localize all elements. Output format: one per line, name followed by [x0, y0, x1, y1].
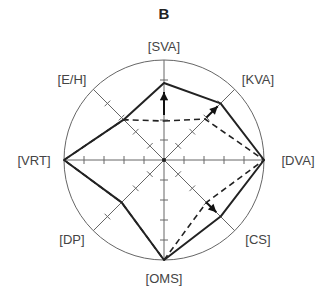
axis-label-dva: [DVA]	[282, 153, 315, 168]
radar-chart: B [SVA][KVA][DVA][CS][OMS][DP][VRT][E/H]	[0, 0, 332, 301]
axis-spoke	[164, 89, 235, 160]
axis-spoke	[93, 160, 164, 231]
axis-spoke	[164, 160, 235, 231]
axis-label-oms: [OMS]	[146, 271, 183, 286]
arrowhead-icon	[160, 92, 168, 100]
axis-label-cs: [CS]	[245, 232, 270, 247]
axis-label-e-h: [E/H]	[58, 72, 87, 87]
change-arrows	[160, 92, 218, 212]
radar-grid	[64, 60, 264, 260]
axis-label-vrt: [VRT]	[18, 153, 51, 168]
axis-label-sva: [SVA]	[148, 39, 180, 54]
axis-label-kva: [KVA]	[242, 72, 274, 87]
center-point	[162, 158, 166, 162]
axis-label-dp: [DP]	[59, 232, 84, 247]
chart-title: B	[159, 5, 170, 22]
axis-spoke	[93, 89, 164, 160]
